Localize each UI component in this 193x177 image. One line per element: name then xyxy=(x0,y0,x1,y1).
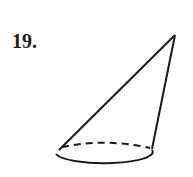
cone-base-back-arc-dashed xyxy=(62,143,150,148)
cone-right-slant-edge xyxy=(152,35,175,149)
oblique-cone-figure xyxy=(0,0,193,177)
cone-left-slant-edge xyxy=(59,35,175,150)
cone-base-front-arc xyxy=(56,150,153,163)
